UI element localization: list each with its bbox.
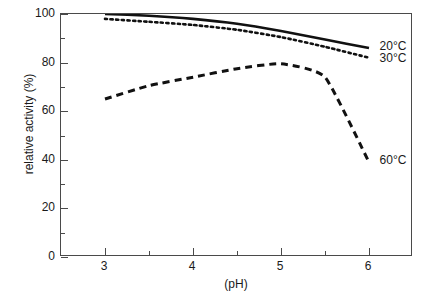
y-axis-tick (61, 136, 65, 137)
x-axis-tick (237, 251, 238, 255)
plot-area: 20°C30°C60°C (60, 13, 412, 256)
x-axis-tick-label: 3 (89, 259, 119, 273)
y-axis-tick (61, 208, 68, 209)
y-axis-tick (61, 63, 68, 64)
y-axis-tick (61, 14, 68, 15)
y-axis-title: relative activity (%) (22, 34, 36, 214)
x-axis-tick (281, 248, 282, 255)
y-axis-tick (61, 87, 65, 88)
y-axis-tick (61, 257, 68, 258)
y-axis-tick (61, 233, 65, 234)
x-axis-tick (369, 248, 370, 255)
x-axis-tick (193, 248, 194, 255)
x-axis-tick (325, 251, 326, 255)
x-axis-tick (105, 248, 106, 255)
series-label-60c: 60°C (380, 154, 407, 167)
x-axis-tick-labels: 3456 (60, 259, 412, 279)
x-axis-tick-label: 4 (177, 259, 207, 273)
series-line-60c (105, 64, 369, 162)
series-label-30c: 30°C (380, 52, 407, 65)
x-axis-tick (149, 251, 150, 255)
y-axis-tick-label: 100 (15, 7, 55, 19)
y-axis-tick (61, 160, 68, 161)
x-axis-tick-label: 6 (353, 259, 383, 273)
series-line-20c (105, 14, 369, 48)
y-axis-tick-label: 0 (15, 250, 55, 262)
y-axis-tick (61, 184, 65, 185)
x-axis-tick-label: 5 (265, 259, 295, 273)
x-axis-title: (pH) (60, 277, 412, 291)
series-lines (61, 14, 413, 257)
y-axis-tick (61, 111, 68, 112)
chart-figure: 020406080100 relative activity (%) 20°C3… (0, 0, 423, 300)
y-axis-tick (61, 38, 65, 39)
